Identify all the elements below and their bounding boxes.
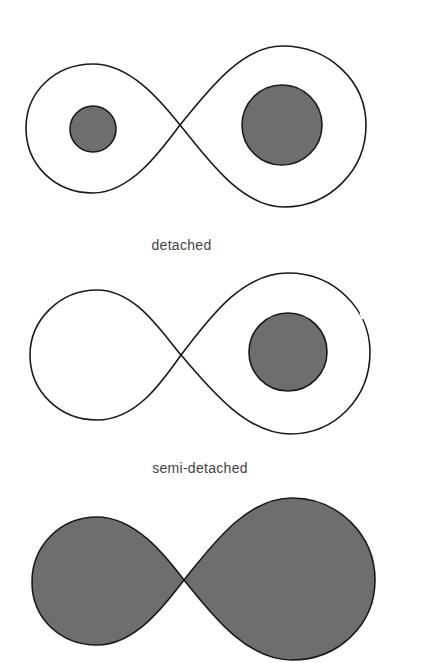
label-detached: detached	[0, 237, 363, 253]
label-semi-detached: semi-detached	[2, 460, 398, 476]
large-star	[249, 313, 327, 391]
small-star	[70, 106, 116, 152]
panel-contact	[32, 498, 375, 660]
outline-gap	[361, 313, 363, 319]
roche-lobe-diagram	[0, 0, 423, 663]
panel-detached	[26, 46, 366, 207]
large-star	[242, 85, 322, 165]
panel-semi-detached	[30, 273, 370, 434]
filled-roche-lobes	[32, 498, 375, 660]
